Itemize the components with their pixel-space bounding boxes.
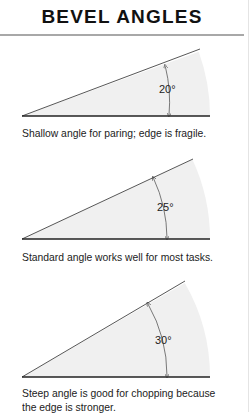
- wedge-fill: [22, 283, 210, 377]
- wedge-fill: [22, 160, 210, 240]
- caption-20: Shallow angle for paring; edge is fragil…: [22, 126, 222, 140]
- caption-30: Steep angle is good for chopping because…: [22, 386, 222, 414]
- angle-label: 25°: [157, 201, 174, 213]
- bevel-diagram-25: 25°: [22, 159, 210, 239]
- bevel-diagram-20: 20°: [22, 49, 210, 116]
- bevel-diagram-30: 30°: [22, 281, 210, 377]
- angle-label: 20°: [159, 83, 176, 95]
- angle-label: 30°: [155, 334, 172, 346]
- caption-25: Standard angle works well for most tasks…: [22, 250, 222, 264]
- wedge-fill: [22, 52, 210, 116]
